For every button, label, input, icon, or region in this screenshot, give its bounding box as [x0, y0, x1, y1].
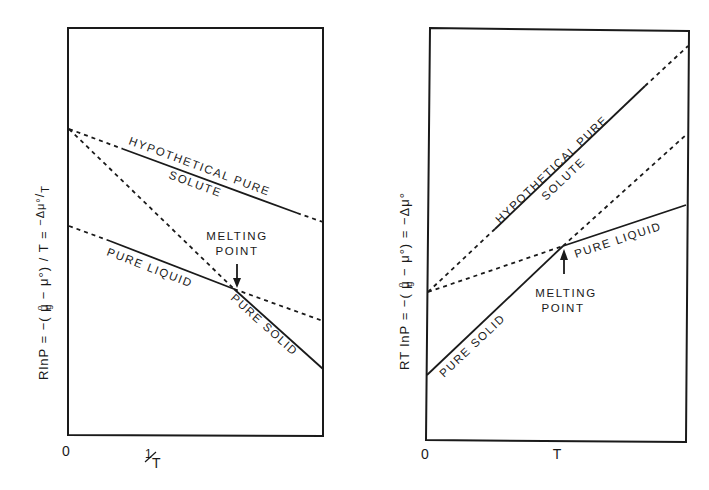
right-hyp-extrap-low [428, 229, 495, 292]
right-hyp-extrap-high [645, 46, 688, 86]
left-liquid-extrap-low [69, 226, 110, 241]
right-liquid-label: PURE LIQUID [573, 220, 663, 260]
svg-text:RT lnP = −( μog − μ°) = −Δμ°: RT lnP = −( μog − μ°) = −Δμ° [396, 192, 414, 370]
right-melting-label-1: MELTING [535, 287, 596, 299]
left-liquid-label: PURE LIQUID [105, 246, 194, 290]
left-solid-label: PURE SOLID [229, 292, 301, 358]
left-plot-frame [68, 28, 323, 436]
right-melting-arrow-icon [560, 249, 568, 274]
right-x-axis-label: T [553, 446, 562, 462]
left-hyp-line [123, 149, 297, 213]
right-hyp-label-1: HYPOTHETICAL PURE [493, 113, 610, 225]
left-melting-label-2: POINT [215, 245, 258, 257]
left-origin-label: 0 [62, 443, 70, 459]
left-y-axis-label: RlnP = −( μog − μ°) / T = −Δμ°/T [32, 185, 53, 380]
left-hyp-extrap-high [297, 213, 323, 222]
right-solid-extrap [563, 134, 687, 246]
right-y-axis-label: RT lnP = −( μog − μ°) = −Δμ° [396, 192, 414, 370]
right-origin-label: 0 [421, 446, 429, 462]
svg-text:T: T [152, 455, 161, 471]
figure: MELTING POINT HYPOTHETICAL PURE SOLUTE P… [0, 0, 709, 490]
right-solid-label: PURE SOLID [437, 312, 507, 380]
left-melting-arrow-icon [233, 264, 241, 288]
left-chart: MELTING POINT HYPOTHETICAL PURE SOLUTE P… [32, 28, 323, 471]
right-liquid-extrap [428, 246, 563, 292]
right-chart: MELTING POINT HYPOTHETICAL PURE SOLUTE P… [396, 28, 689, 462]
left-melting-label-1: MELTING [206, 230, 267, 242]
left-hyp-extrap-low [69, 129, 123, 149]
right-melting-label-2: POINT [541, 302, 584, 314]
left-x-axis-label: 1 T [145, 447, 161, 471]
svg-text:RlnP = −( μog − μ°) / T = −Δμ°: RlnP = −( μog − μ°) / T = −Δμ°/T [32, 185, 53, 380]
